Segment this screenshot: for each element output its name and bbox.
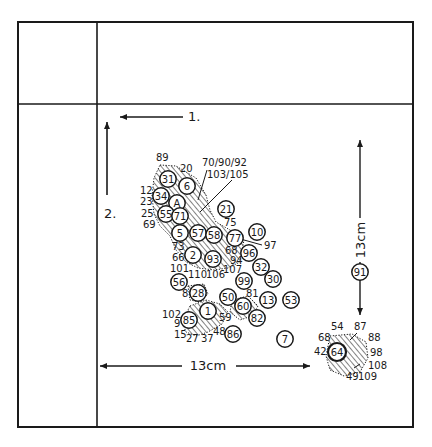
point-label: 55 (160, 209, 173, 220)
circled-point-34: 34 (153, 188, 169, 204)
point-label: 58 (208, 230, 221, 241)
circled-point-10: 10 (249, 224, 265, 240)
annotation-label: 20 (180, 163, 193, 174)
annotation-label: 89 (156, 152, 169, 163)
annotation-label: 12 (140, 185, 153, 196)
annotation-label: 66 (172, 252, 185, 263)
point-label: 7 (282, 334, 288, 345)
circled-point-91: 91 (352, 264, 368, 280)
circled-point-28: 28 (190, 285, 206, 301)
circled-point-1: 1 (200, 303, 216, 319)
annotation-label: 25 (141, 208, 154, 219)
circled-point-30: 30 (265, 271, 281, 287)
diagram-canvas: 1.2.13cm13cm 31634A557121557587710293963… (0, 0, 432, 447)
annotation-label: 42 (314, 346, 327, 357)
circled-point-71: 71 (172, 208, 188, 224)
circled-point-21: 21 (218, 201, 234, 217)
axis-2-label: 2. (104, 206, 116, 221)
annotation-label: 37 (201, 333, 214, 344)
point-label: 56 (173, 277, 186, 288)
annotation-label: 27 (186, 333, 199, 344)
circled-point-86: 86 (225, 326, 241, 342)
annotation-label: 59 (219, 312, 232, 323)
circled-point-58: 58 (206, 227, 222, 243)
annotation-label: 69 (143, 219, 156, 230)
point-label: 13 (262, 295, 275, 306)
annotation-label: 15 (174, 329, 187, 340)
circled-point-50: 50 (220, 289, 236, 305)
annotation-label: 49 (346, 371, 359, 382)
arrow-left-icon (100, 363, 107, 369)
annotation-label: 98 (370, 347, 383, 358)
annotation-label: 87 (354, 321, 367, 332)
circled-point-99: 99 (236, 273, 252, 289)
point-label: 30 (267, 274, 280, 285)
point-label: 10 (251, 227, 264, 238)
point-label: 6 (184, 181, 190, 192)
point-label: 96 (243, 248, 256, 259)
arrow-left-icon (120, 114, 127, 120)
circled-point-93: 93 (205, 251, 221, 267)
circled-point-85: 85 (181, 312, 197, 328)
point-label: 64 (331, 347, 344, 358)
circled-point-13: 13 (260, 292, 276, 308)
point-label: 86 (227, 329, 240, 340)
point-label: 57 (192, 228, 205, 239)
circled-point-82: 82 (249, 310, 265, 326)
point-label: 77 (229, 233, 242, 244)
annotation-label: 107 (223, 264, 242, 275)
annotation-label: 8 (182, 288, 188, 299)
arrow-down-icon (357, 308, 363, 315)
circled-point-7: 7 (277, 331, 293, 347)
point-label: 50 (222, 292, 235, 303)
point-label: 28 (192, 288, 205, 299)
circled-point-96: 96 (241, 245, 257, 261)
point-label: 1 (205, 306, 211, 317)
point-label: 99 (238, 276, 251, 287)
annotation-label: 110 (188, 269, 207, 280)
point-label: 34 (155, 191, 168, 202)
point-label: 91 (354, 267, 367, 278)
point-label: 2 (190, 250, 196, 261)
arrow-up-icon (104, 122, 110, 129)
circled-point-53: 53 (283, 292, 299, 308)
annotation-label: 81 (246, 288, 259, 299)
annotation-label: 48 (213, 326, 226, 337)
v-scale-label: 13cm (353, 222, 368, 258)
annotation-label: 88 (368, 332, 381, 343)
annotation-label: 101 (170, 263, 189, 274)
circled-point-77: 77 (227, 230, 243, 246)
annotation-label: 68 (318, 332, 331, 343)
arrow-right-icon (303, 363, 310, 369)
annotation-label: 108 (368, 360, 387, 371)
annotation-label: 73 (172, 241, 185, 252)
annotation-label: 23 (140, 196, 153, 207)
circled-point-31: 31 (160, 171, 176, 187)
annotation-label: 97 (264, 240, 277, 251)
point-label: 5 (177, 228, 183, 239)
annotation-label: 75 (224, 217, 237, 228)
circled-point-5: 5 (172, 225, 188, 241)
point-label: 31 (162, 174, 175, 185)
axis-1-label: 1. (188, 109, 200, 124)
annotation-label: 70/90/92 (202, 157, 247, 168)
point-label: 53 (285, 295, 298, 306)
circled-point-60: 60 (235, 298, 251, 314)
point-label: 82 (251, 313, 264, 324)
annotation-label: 9 (174, 318, 180, 329)
circled-point-64: 64 (328, 343, 346, 361)
arrow-up-icon (357, 140, 363, 147)
leader-line (244, 240, 262, 245)
point-label: 85 (183, 315, 196, 326)
annotation-label: 54 (331, 321, 344, 332)
point-label: 71 (174, 211, 187, 222)
circled-point-6: 6 (179, 178, 195, 194)
point-label: 60 (237, 301, 250, 312)
point-label: 32 (255, 262, 268, 273)
circled-point-57: 57 (190, 225, 206, 241)
h-scale-label: 13cm (190, 358, 226, 373)
annotation-label: 103/105 (207, 169, 249, 180)
point-label: 93 (207, 254, 220, 265)
point-label: 21 (220, 204, 233, 215)
annotation-label: 109 (358, 371, 377, 382)
